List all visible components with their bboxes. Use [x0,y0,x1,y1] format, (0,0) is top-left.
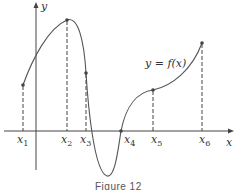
function-figure: y x y = f(x) x1 x2 x3 x4 x5 x6 Figure 12 [0,0,237,190]
y-axis-arrow-icon [34,2,39,8]
x-axis-label: x [226,137,232,148]
x-axis-arrow-icon [228,129,234,134]
x2-sub: 2 [67,139,72,148]
x4-label: x4 [124,134,135,146]
function-curve [23,20,202,177]
x2-label: x2 [61,134,72,146]
x5-sub: 5 [157,139,162,148]
x1-label: x1 [17,134,28,146]
figure-graphic [0,0,237,190]
x6-label: x6 [199,134,210,146]
dashed-guides [23,21,202,131]
x4-sub: 4 [130,139,135,148]
curve-label: y = f(x) [145,58,186,69]
y-axis-label: y [41,1,47,12]
x6-sub: 6 [205,139,210,148]
x3-label: x3 [80,134,91,146]
x5-label: x5 [151,134,162,146]
x3-sub: 3 [86,139,91,148]
x1-sub: 1 [23,139,28,148]
figure-caption: Figure 12 [95,181,142,190]
